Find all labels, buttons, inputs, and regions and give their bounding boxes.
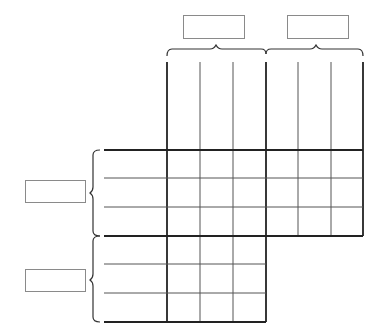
row-bracket-1: [90, 150, 100, 236]
column-bracket-2: [266, 45, 363, 56]
major-vertical-lines: [167, 62, 363, 322]
logic-grid: [0, 0, 380, 331]
row-bracket-2: [90, 236, 100, 322]
column-bracket-1: [167, 45, 266, 56]
